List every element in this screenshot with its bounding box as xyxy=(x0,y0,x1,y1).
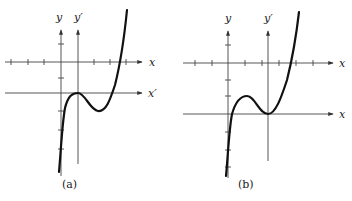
panel-caption: (b) xyxy=(238,178,254,191)
panel-caption: (a) xyxy=(62,178,77,191)
x-prime-label: x′ xyxy=(148,87,157,100)
y-prime-label: y′ xyxy=(263,12,273,25)
x-label: x xyxy=(339,57,346,70)
y-label: y xyxy=(55,11,63,24)
x-bottom-label: x xyxy=(339,108,346,121)
panel-a: y y′ x x′ (a) xyxy=(5,10,157,191)
figure-canvas: y y′ x x′ (a) xyxy=(0,0,352,201)
panel-b: y y′ x x (b) xyxy=(183,12,346,191)
y-label: y xyxy=(224,12,232,25)
x-label: x xyxy=(149,56,156,69)
y-prime-label: y′ xyxy=(73,11,83,24)
cubic-curve-a xyxy=(59,10,127,172)
cubic-curve-b xyxy=(226,12,299,176)
